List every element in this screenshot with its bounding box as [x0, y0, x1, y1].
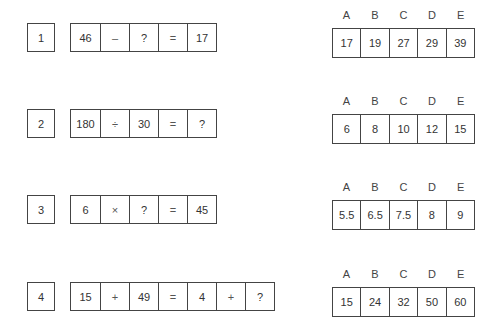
equals-operator: =	[158, 24, 187, 51]
option-d[interactable]: 12	[417, 115, 445, 143]
question-row-4: 4 15 + 49 = 4 + ? A B C D E 15 24 32 50 …	[0, 268, 497, 318]
equals-operator: =	[158, 196, 187, 223]
equation: 46 – ? = 17	[70, 23, 217, 52]
equation-term: 45	[187, 196, 216, 223]
option-labels: A B C D E	[332, 95, 475, 109]
option-label-a: A	[332, 9, 361, 23]
option-e[interactable]: 15	[446, 115, 474, 143]
question-number: 1	[27, 23, 55, 52]
option-a[interactable]: 6	[333, 115, 360, 143]
equation-term: 4	[187, 283, 216, 310]
unknown-term: ?	[245, 283, 274, 310]
option-label-e: E	[446, 95, 475, 109]
answer-options: A B C D E 6 8 10 12 15	[332, 95, 475, 144]
option-d[interactable]: 8	[417, 201, 445, 229]
option-label-b: B	[361, 9, 390, 23]
option-label-b: B	[361, 268, 390, 282]
option-label-b: B	[361, 181, 390, 195]
option-grid: 17 19 27 29 39	[332, 28, 475, 58]
option-label-b: B	[361, 95, 390, 109]
option-grid: 5.5 6.5 7.5 8 9	[332, 200, 475, 230]
plus-operator: +	[216, 283, 245, 310]
option-a[interactable]: 17	[333, 29, 360, 57]
question-row-1: 1 46 – ? = 17 A B C D E 17 19 27 29 39	[0, 9, 497, 59]
option-grid: 6 8 10 12 15	[332, 114, 475, 144]
option-label-c: C	[389, 268, 418, 282]
equation-term: 46	[71, 24, 100, 51]
question-row-2: 2 180 ÷ 30 = ? A B C D E 6 8 10 12 15	[0, 95, 497, 145]
equation-term: 30	[129, 110, 158, 137]
equation: 180 ÷ 30 = ?	[70, 109, 217, 138]
unknown-term: ?	[187, 110, 216, 137]
option-label-c: C	[389, 9, 418, 23]
option-c[interactable]: 7.5	[389, 201, 417, 229]
option-label-c: C	[389, 95, 418, 109]
option-label-a: A	[332, 181, 361, 195]
answer-options: A B C D E 17 19 27 29 39	[332, 9, 475, 58]
option-b[interactable]: 19	[360, 29, 388, 57]
equals-operator: =	[158, 110, 187, 137]
option-labels: A B C D E	[332, 268, 475, 282]
option-grid: 15 24 32 50 60	[332, 287, 475, 317]
equation: 6 × ? = 45	[70, 195, 217, 224]
question-number: 3	[27, 195, 55, 224]
option-labels: A B C D E	[332, 181, 475, 195]
option-c[interactable]: 27	[389, 29, 417, 57]
unknown-term: ?	[129, 24, 158, 51]
equation-term: 49	[129, 283, 158, 310]
option-c[interactable]: 10	[389, 115, 417, 143]
option-label-d: D	[418, 9, 447, 23]
option-b[interactable]: 24	[360, 288, 388, 316]
multiply-operator: ×	[100, 196, 129, 223]
option-d[interactable]: 50	[417, 288, 445, 316]
question-number: 4	[27, 282, 55, 311]
equation-term: 17	[187, 24, 216, 51]
equation-term: 15	[71, 283, 100, 310]
option-b[interactable]: 8	[360, 115, 388, 143]
option-e[interactable]: 60	[446, 288, 474, 316]
answer-options: A B C D E 5.5 6.5 7.5 8 9	[332, 181, 475, 230]
option-label-a: A	[332, 95, 361, 109]
option-e[interactable]: 39	[446, 29, 474, 57]
equation-term: 6	[71, 196, 100, 223]
option-a[interactable]: 5.5	[333, 201, 360, 229]
option-label-a: A	[332, 268, 361, 282]
option-label-e: E	[446, 181, 475, 195]
equation: 15 + 49 = 4 + ?	[70, 282, 275, 311]
option-label-e: E	[446, 268, 475, 282]
plus-operator: +	[100, 283, 129, 310]
unknown-term: ?	[129, 196, 158, 223]
option-b[interactable]: 6.5	[360, 201, 388, 229]
option-c[interactable]: 32	[389, 288, 417, 316]
option-label-d: D	[418, 181, 447, 195]
option-label-e: E	[446, 9, 475, 23]
question-row-3: 3 6 × ? = 45 A B C D E 5.5 6.5 7.5 8 9	[0, 181, 497, 231]
option-d[interactable]: 29	[417, 29, 445, 57]
option-label-c: C	[389, 181, 418, 195]
option-a[interactable]: 15	[333, 288, 360, 316]
equals-operator: =	[158, 283, 187, 310]
minus-operator: –	[100, 24, 129, 51]
equation-term: 180	[71, 110, 100, 137]
option-label-d: D	[418, 268, 447, 282]
option-labels: A B C D E	[332, 9, 475, 23]
divide-operator: ÷	[100, 110, 129, 137]
question-number: 2	[27, 109, 55, 138]
option-e[interactable]: 9	[446, 201, 474, 229]
option-label-d: D	[418, 95, 447, 109]
answer-options: A B C D E 15 24 32 50 60	[332, 268, 475, 317]
